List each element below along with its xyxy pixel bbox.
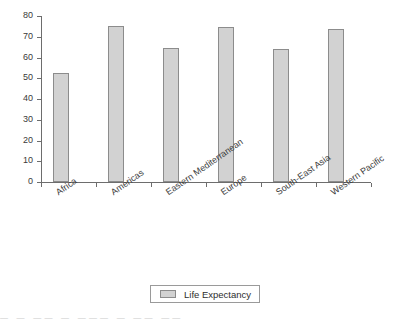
y-axis-tick-label: 10	[23, 155, 33, 166]
y-axis-tick-label: 60	[23, 52, 33, 63]
y-axis-tick: 30	[37, 120, 41, 121]
y-axis-tick: 70	[37, 37, 41, 38]
y-axis-tick-label: 50	[23, 72, 33, 83]
x-axis-tick	[261, 183, 262, 187]
cut-off-caption: — — —— — ——— — —— ——	[0, 316, 396, 323]
y-axis-tick: 20	[37, 141, 41, 142]
y-axis-tick: 80	[37, 16, 41, 17]
x-axis-tick	[371, 183, 372, 187]
y-axis-tick-label: 70	[23, 31, 33, 42]
y-axis-tick: 40	[37, 99, 41, 100]
y-axis-tick-label: 0	[28, 176, 33, 187]
y-axis-tick: 50	[37, 78, 41, 79]
x-axis-tick	[316, 183, 317, 187]
bar	[163, 48, 179, 182]
x-axis-tick	[151, 183, 152, 187]
x-axis-tick	[96, 183, 97, 187]
legend-swatch-life-expectancy	[160, 290, 176, 298]
y-axis-tick-label: 40	[23, 93, 33, 104]
y-axis-tick-label: 30	[23, 114, 33, 125]
chart-legend: Life Expectancy	[150, 285, 260, 303]
y-axis-tick-label: 20	[23, 135, 33, 146]
y-axis-tick: 10	[37, 161, 41, 162]
caption-text: — — —— — ——— — —— ——	[0, 316, 396, 323]
bar	[108, 26, 124, 182]
plot-area: 01020304050607080 AfricaAmericasEastern …	[41, 16, 371, 183]
y-axis-tick: 60	[37, 58, 41, 59]
x-axis-tick	[41, 183, 42, 187]
y-axis-tick-label: 80	[23, 10, 33, 21]
bar	[53, 73, 69, 182]
bar-chart-figure: 01020304050607080 AfricaAmericasEastern …	[0, 0, 396, 323]
bar	[273, 49, 289, 182]
y-axis-line	[41, 16, 42, 183]
x-axis-tick	[206, 183, 207, 187]
legend-label-life-expectancy: Life Expectancy	[184, 289, 251, 300]
